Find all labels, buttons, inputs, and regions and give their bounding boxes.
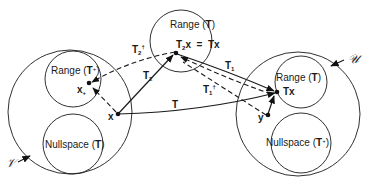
point-y: [266, 113, 271, 118]
label-T2-dagger: T2†: [132, 44, 145, 56]
arrow-x-to-xplus: [93, 88, 116, 112]
label-right-nullspace: Nullspace (T+): [266, 137, 329, 148]
point-x: [116, 112, 121, 117]
point-t2x: [174, 51, 179, 56]
label-point-x-plus: x+: [77, 84, 87, 96]
label-point-tx: Tx: [283, 86, 295, 97]
operator-diagram: Range (T+) Nullspace (T) Range (T) Range…: [0, 0, 377, 185]
label-T1: T1: [225, 60, 235, 72]
label-point-x: x: [108, 111, 114, 122]
arrow-T: [118, 93, 275, 114]
label-T: T: [172, 99, 178, 110]
label-left-nullspace: Nullspace (T): [45, 139, 104, 150]
label-left-range: Range (T+): [51, 65, 100, 76]
label-T2: T2: [143, 70, 153, 82]
point-tx: [275, 90, 280, 95]
domain-pointer-arrow: [18, 156, 30, 162]
label-point-t2x: T2x = Tx: [176, 39, 220, 51]
codomain-space-circle: [236, 52, 360, 176]
label-codomain-space: 𝒰: [348, 52, 362, 66]
left-range-circle: [45, 51, 101, 107]
label-middle-range: Range (T): [170, 19, 215, 30]
label-T1-dagger: T1†: [203, 84, 216, 96]
arrow-T2: [118, 55, 173, 114]
arrow-y-to-tx: [268, 96, 274, 114]
label-domain-space: 𝒱: [6, 156, 20, 170]
label-point-y: y: [258, 112, 264, 123]
point-x-plus: [87, 81, 92, 86]
label-right-range: Range (T): [276, 72, 321, 83]
